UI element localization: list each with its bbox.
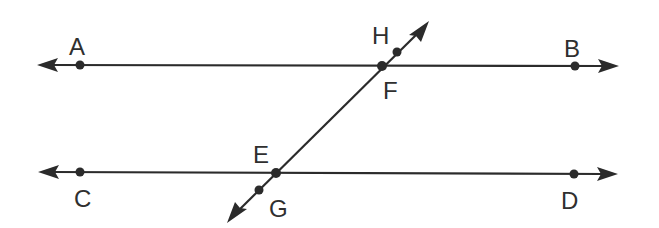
point-a	[76, 61, 85, 70]
parallel-lines-transversal-diagram: A H B F E C G D	[0, 0, 659, 228]
label-d: D	[561, 187, 578, 214]
point-b	[571, 62, 580, 71]
point-h	[393, 48, 402, 57]
label-e: E	[253, 141, 269, 168]
label-a: A	[69, 33, 85, 60]
point-d	[570, 170, 579, 179]
line-ab	[37, 58, 619, 73]
point-g	[255, 186, 264, 195]
label-h: H	[372, 22, 389, 49]
point-f	[377, 61, 387, 71]
label-g: G	[269, 195, 288, 222]
line-cd	[38, 165, 618, 181]
point-c	[76, 168, 85, 177]
label-c: C	[74, 185, 91, 212]
point-e	[271, 168, 281, 178]
label-b: B	[564, 35, 580, 62]
label-f: F	[383, 77, 398, 104]
